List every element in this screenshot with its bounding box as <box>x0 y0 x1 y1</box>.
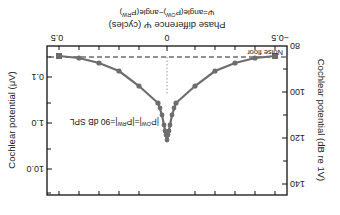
y-tick-label-right: 1.0 <box>31 118 44 128</box>
noise-floor-label: Noise floor <box>247 48 283 57</box>
x-axis-label: Phase difference Ψ (cycles) <box>108 20 225 31</box>
y-tick-label-right: 0.1 <box>31 72 44 82</box>
chart: −0.5 0 0.5 Phase difference Ψ (cycles) Ψ… <box>0 0 340 215</box>
x-axis-sublabel: Ψ=angle(POW)−angle(PRW) <box>119 8 214 18</box>
data-points <box>56 53 278 142</box>
x-tick-label: 0.5 <box>51 33 64 43</box>
x-tick-label: 0 <box>164 33 169 43</box>
y-tick-label-right: 10.0 <box>26 164 44 174</box>
y-tick-label-left: 120 <box>290 133 305 143</box>
condition-annotation: |POW|=|PRW|=90 dB SPL <box>69 117 159 127</box>
y-tick-label-left: 140 <box>290 179 305 189</box>
rotated-figure: −0.5 0 0.5 Phase difference Ψ (cycles) Ψ… <box>0 0 340 215</box>
y-ticks-left <box>282 69 287 184</box>
y-tick-label-left: 80 <box>290 41 300 51</box>
x-tick-label: −0.5 <box>271 33 289 43</box>
x-ticks <box>59 46 275 51</box>
y-tick-label-left: 100 <box>290 87 305 97</box>
y-axis-label-left: Cochlear potential (dB re 1V) <box>316 59 327 182</box>
y-axis-label-right: Cochlear potential (μV) <box>6 71 17 168</box>
y-ticks-right <box>47 57 52 193</box>
